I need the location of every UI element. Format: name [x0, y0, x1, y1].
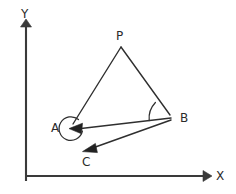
- point-label-B: B: [180, 112, 188, 124]
- x-axis-label: X: [216, 170, 224, 182]
- segment-P-to-B: [121, 47, 170, 115]
- point-label-P: P: [116, 30, 123, 42]
- segment-P-to-A: [73, 47, 121, 124]
- vector-B-to-A-arrowhead: [69, 123, 83, 134]
- angle-arc-at-B: [149, 103, 155, 121]
- axes-group: [21, 19, 213, 182]
- vector-B-to-C-arrowhead: [83, 143, 98, 152]
- vector-B-to-A-shaft: [81, 118, 171, 129]
- y-axis-label: Y: [21, 8, 28, 20]
- vector-B-to-C-shaft: [94, 120, 171, 148]
- vector-B-to-C: [83, 120, 172, 153]
- point-label-C: C: [82, 156, 90, 168]
- triangle-sides-group: [73, 47, 170, 124]
- x-axis-arrowhead: [203, 171, 212, 182]
- vector-diagram-figure: P A B C X Y: [0, 0, 236, 194]
- point-label-A: A: [51, 122, 59, 134]
